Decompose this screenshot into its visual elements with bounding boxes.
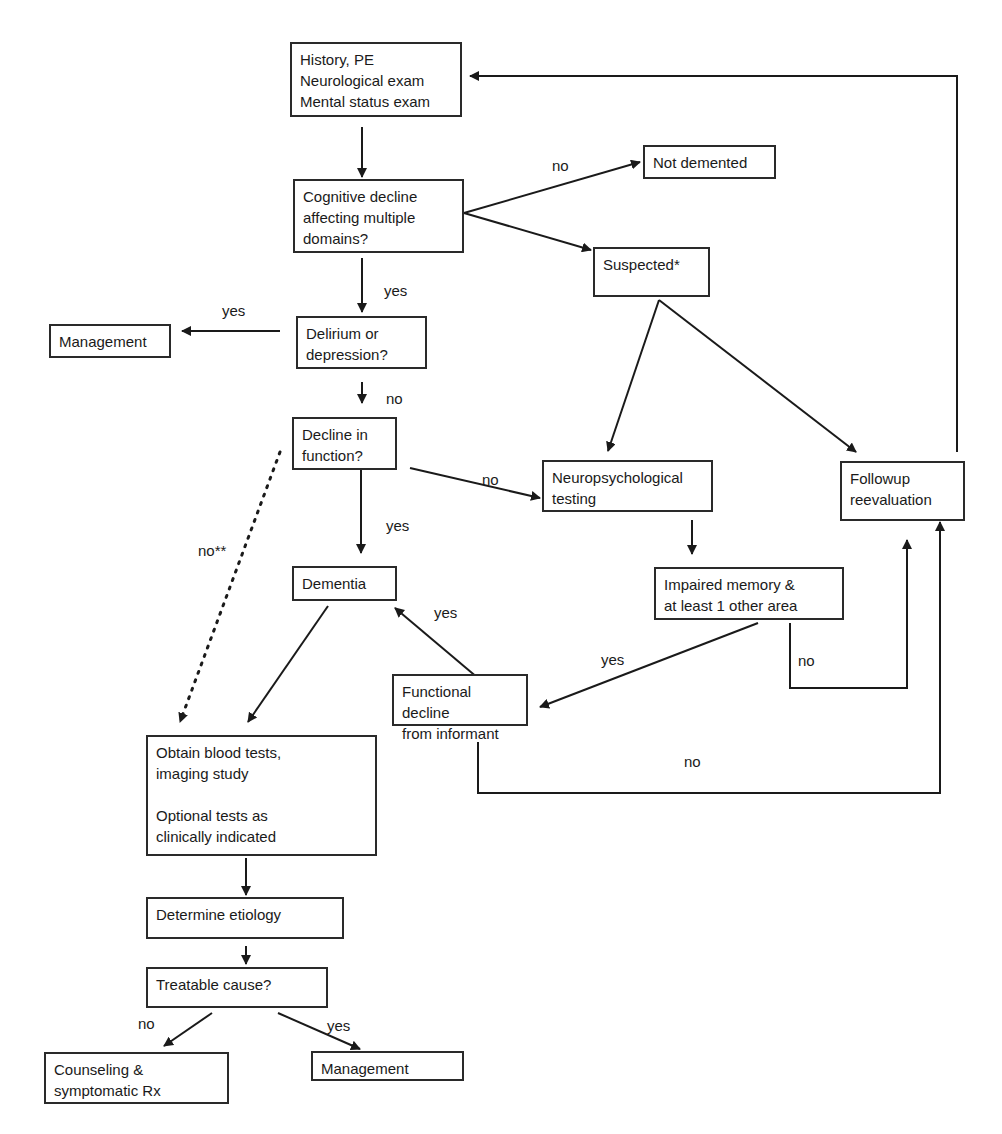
node-followup: Followup reevaluation xyxy=(840,461,965,521)
node-blood-tests: Obtain blood tests, imaging study Option… xyxy=(146,735,377,856)
node-treatable-cause: Treatable cause? xyxy=(146,967,328,1008)
edge-label-impaired-yes: yes xyxy=(601,651,624,669)
edge-label-functional-no: no xyxy=(684,753,701,771)
edge-label-impaired-no: no xyxy=(798,652,815,670)
node-impaired-memory: Impaired memory & at least 1 other area xyxy=(654,567,844,620)
node-delirium: Delirium or depression? xyxy=(296,316,427,369)
flowchart-connectors xyxy=(0,0,1002,1134)
node-neuropsych-testing: Neuropsychological testing xyxy=(542,460,713,512)
node-counseling: Counseling & symptomatic Rx xyxy=(44,1052,229,1104)
node-not-demented: Not demented xyxy=(643,145,776,179)
edge-label-treatable-yes: yes xyxy=(327,1017,350,1035)
node-suspected: Suspected* xyxy=(593,247,710,297)
edge-label-treatable-no: no xyxy=(138,1015,155,1033)
node-dementia: Dementia xyxy=(292,566,397,601)
edge-label-cognitive-no: no xyxy=(552,157,569,175)
node-determine-etiology: Determine etiology xyxy=(146,897,344,939)
node-decline-function: Decline in function? xyxy=(292,417,397,470)
node-history: History, PE Neurological exam Mental sta… xyxy=(290,42,462,117)
node-management-top: Management xyxy=(49,324,171,358)
edge-label-decline-yes: yes xyxy=(386,517,409,535)
node-functional-decline: Functional decline from informant xyxy=(392,674,528,726)
edge-label-delirium-no: no xyxy=(386,390,403,408)
edge-label-cognitive-yes: yes xyxy=(384,282,407,300)
edge-label-decline-no: no xyxy=(482,471,499,489)
edge-label-delirium-yes: yes xyxy=(222,302,245,320)
node-cognitive-decline: Cognitive decline affecting multiple dom… xyxy=(293,179,464,253)
edge-label-functional-yes: yes xyxy=(434,604,457,622)
edge-label-decline-no-dotted: no** xyxy=(198,542,226,560)
node-management-bottom: Management xyxy=(311,1051,464,1081)
